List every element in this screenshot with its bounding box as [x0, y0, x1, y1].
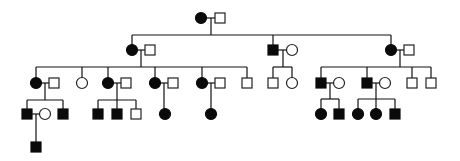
affected-female-symbol-iii-6 [150, 78, 161, 89]
affected-female-symbol-iii-4 [103, 78, 114, 89]
affected-female-symbol-iii-1 [31, 78, 42, 89]
affected-male-symbol-iv-4 [93, 109, 103, 119]
unaffected-male-symbol-iii-5 [121, 78, 131, 88]
unaffected-female-symbol-iii-12 [287, 78, 298, 89]
affected-male-symbol-iv-1 [22, 109, 32, 119]
unaffected-male-symbol-iii-9 [215, 78, 225, 88]
affected-female-symbol-iv-7 [160, 109, 171, 120]
unaffected-female-symbol-iii-16 [380, 78, 391, 89]
affected-female-symbol-iv-12 [371, 109, 382, 120]
unaffected-male-symbol-iii-11 [268, 78, 278, 88]
affected-male-symbol-iii-15 [362, 78, 372, 88]
affected-female-symbol-iv-9 [316, 109, 327, 120]
affected-male-symbol-ii-3 [268, 45, 278, 55]
unaffected-male-symbol-iv-6 [131, 109, 141, 119]
unaffected-female-symbol-iii-14 [334, 78, 345, 89]
unaffected-female-symbol-iv-2 [40, 109, 51, 120]
unaffected-male-symbol-ii-2 [145, 45, 155, 55]
unaffected-female-symbol-ii-4 [287, 45, 298, 56]
individual-symbols [22, 13, 436, 153]
unaffected-female-symbol-iii-3 [77, 78, 88, 89]
affected-female-symbol-ii-5 [386, 45, 397, 56]
unaffected-male-symbol-iii-7 [168, 78, 178, 88]
affected-female-symbol-iii-8 [197, 78, 208, 89]
unaffected-male-symbol-iii-2 [49, 78, 59, 88]
unaffected-male-symbol-ii-6 [404, 45, 414, 55]
unaffected-male-symbol-iii-10 [242, 78, 252, 88]
affected-male-symbol-iv-5 [112, 109, 122, 119]
unaffected-male-symbol-iii-18 [426, 78, 436, 88]
affected-male-symbol-iv-13 [390, 109, 400, 119]
affected-female-symbol-ii-1 [127, 45, 138, 56]
affected-female-symbol-iv-11 [353, 109, 364, 120]
affected-male-symbol-iv-10 [334, 109, 344, 119]
affected-female-symbol-i-1 [196, 13, 207, 24]
unaffected-male-symbol-iii-17 [407, 78, 417, 88]
affected-female-symbol-iv-8 [206, 109, 217, 120]
affected-male-symbol-iv-3 [58, 109, 68, 119]
unaffected-male-symbol-i-2 [215, 13, 225, 23]
affected-male-symbol-iii-13 [316, 78, 326, 88]
affected-male-symbol-v-1 [31, 142, 41, 152]
pedigree-chart [0, 0, 460, 161]
